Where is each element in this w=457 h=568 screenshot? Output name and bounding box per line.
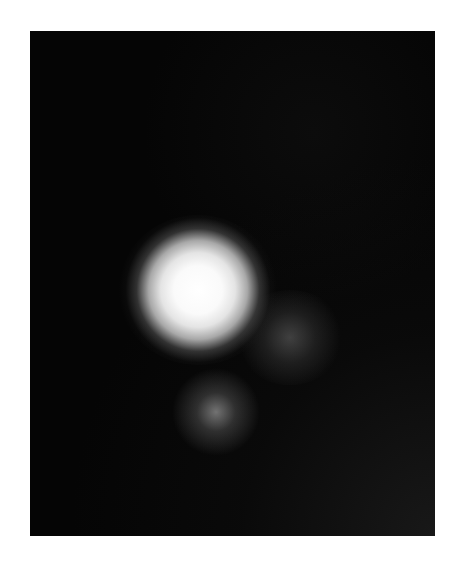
tertiary-dim-blob xyxy=(170,367,262,457)
primary-bright-blob xyxy=(118,215,278,365)
image-frame xyxy=(30,31,435,536)
